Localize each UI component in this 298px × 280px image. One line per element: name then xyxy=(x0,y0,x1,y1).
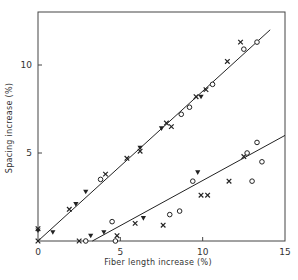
circle-marker xyxy=(110,219,115,224)
cross-marker xyxy=(115,233,120,238)
circle-marker xyxy=(260,160,265,165)
cross-marker xyxy=(133,221,138,226)
x-axis-label: Fiber length increase (%) xyxy=(104,258,212,267)
circle-marker xyxy=(255,40,260,45)
cross-marker xyxy=(238,40,243,45)
triangle-marker xyxy=(83,190,88,195)
circle-marker xyxy=(187,105,192,110)
cross-marker xyxy=(205,193,210,198)
x-tick-label: 5 xyxy=(117,247,123,257)
triangle-marker xyxy=(198,95,203,100)
circle-marker xyxy=(250,179,255,184)
cross-marker xyxy=(103,172,108,177)
cross-marker xyxy=(161,223,166,228)
y-tick-label: 10 xyxy=(21,60,33,70)
circle-marker xyxy=(167,212,172,217)
x-axis-ticks: 051015 xyxy=(35,237,291,257)
circle-marker xyxy=(255,140,260,145)
scatter-chart: 051015 510 Fiber length increase (%) Spa… xyxy=(0,0,298,280)
circle-marker xyxy=(210,82,215,87)
x-tick-label: 0 xyxy=(35,247,41,257)
circle-marker xyxy=(245,151,250,156)
triangle-marker xyxy=(141,216,146,221)
y-axis-label: Spacing increase (%) xyxy=(5,83,14,173)
circle-marker xyxy=(98,177,103,182)
cross-marker xyxy=(169,124,174,129)
triangle-marker xyxy=(195,170,200,175)
x-tick-label: 10 xyxy=(197,247,209,257)
circle-marker xyxy=(179,112,184,117)
y-axis-ticks: 510 xyxy=(21,60,42,158)
circle-marker xyxy=(242,47,247,52)
circle-marker xyxy=(113,239,118,244)
x-tick-label: 15 xyxy=(279,247,290,257)
fit-lines xyxy=(38,30,285,241)
cross-marker xyxy=(199,193,204,198)
cross-marker xyxy=(227,179,232,184)
cross-marker xyxy=(194,94,199,99)
circle-marker xyxy=(177,209,182,214)
circle-marker xyxy=(83,239,88,244)
fit-line xyxy=(38,30,270,241)
circle-marker xyxy=(190,179,195,184)
triangle-marker xyxy=(88,234,93,239)
triangle-marker xyxy=(50,230,55,235)
cross-marker xyxy=(225,59,230,64)
y-tick-label: 5 xyxy=(26,148,32,158)
cross-marker xyxy=(67,207,72,212)
fit-line xyxy=(92,135,285,241)
